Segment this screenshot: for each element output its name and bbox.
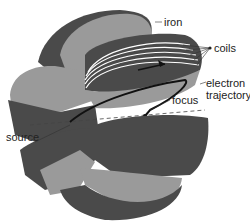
spectrometer-diagram — [0, 0, 250, 224]
label-source: source — [6, 131, 39, 143]
label-coils: coils — [214, 42, 236, 54]
label-focus: focus — [172, 94, 198, 106]
label-iron: iron — [164, 16, 182, 28]
label-electron-line2: trajectory — [206, 89, 250, 101]
label-electron-line1: electron — [206, 77, 245, 89]
